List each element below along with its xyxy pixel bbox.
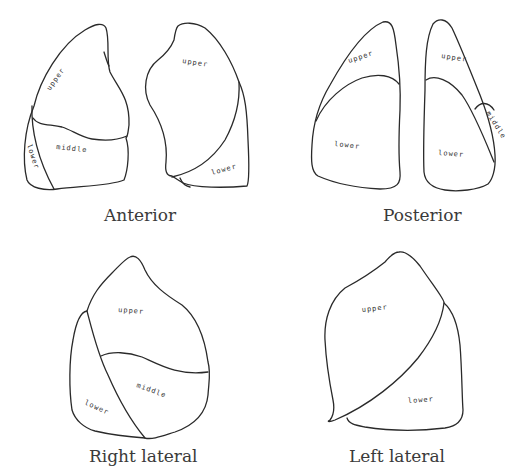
posterior-left-lung: upper lower — [312, 22, 401, 189]
right-lateral-middle-label: middle — [135, 381, 167, 399]
right-lateral-lung-outline — [70, 256, 210, 438]
right-lateral-upper-label: upper — [118, 306, 145, 316]
right-lateral-lower-label: lower — [83, 399, 110, 417]
posterior-left-oblique-fissure — [316, 75, 399, 121]
posterior-right-lower-label: lower — [438, 149, 465, 159]
left-lateral-caption: Left lateral — [349, 446, 445, 466]
posterior-right-lung-outline — [424, 20, 496, 191]
anterior-right-oblique-fissure — [32, 106, 54, 189]
anterior-right-lower-label: lower — [25, 143, 41, 170]
right-lateral-horizontal-fissure — [101, 353, 208, 373]
right-lateral-caption: Right lateral — [89, 446, 197, 466]
left-lateral-upper-label: upper — [361, 303, 388, 314]
anterior-right-middle-label: middle — [56, 143, 88, 154]
anterior-left-upper-label: upper — [182, 57, 209, 69]
posterior-caption: Posterior — [383, 205, 462, 225]
left-lateral-lower-lobe-outline — [347, 303, 463, 430]
right-lateral-view: upper middle lower Right lateral — [70, 256, 210, 466]
posterior-right-middle-label: middle — [484, 110, 507, 141]
posterior-right-oblique-fissure — [426, 78, 494, 162]
anterior-left-lower-label: lower — [210, 162, 237, 176]
lung-lobes-diagram: upper middle lower upper lower Anterior … — [0, 0, 529, 474]
anterior-left-oblique-fissure — [172, 82, 239, 177]
posterior-left-lower-label: lower — [334, 140, 361, 151]
right-lateral-lung: upper middle lower — [70, 256, 210, 438]
left-lateral-lung: upper lower — [325, 252, 463, 430]
anterior-caption: Anterior — [103, 205, 177, 225]
posterior-right-lung: upper middle lower — [424, 20, 508, 191]
left-lateral-lower-label: lower — [408, 395, 435, 405]
left-lateral-view: upper lower Left lateral — [325, 252, 463, 466]
posterior-view: upper lower upper middle lower Posterior — [312, 20, 508, 225]
anterior-right-lung: upper middle lower — [24, 24, 129, 189]
anterior-left-lung: upper lower — [146, 23, 249, 187]
anterior-right-horizontal-fissure — [33, 118, 127, 140]
anterior-view: upper middle lower upper lower Anterior — [24, 23, 249, 225]
right-lateral-oblique-fissure — [87, 311, 145, 438]
